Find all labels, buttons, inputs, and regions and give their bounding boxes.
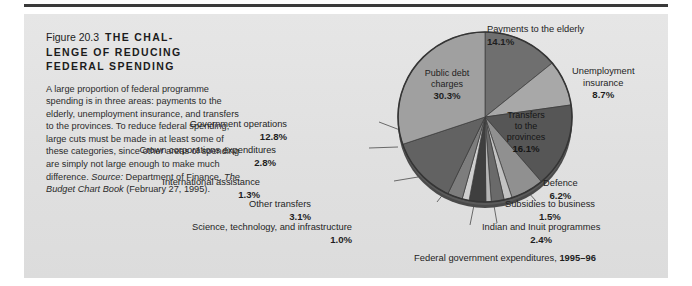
top-rule-divider xyxy=(24,4,668,7)
slice-callout-science-name: Science, technology, and infrastructure xyxy=(192,222,352,232)
slice-callout-indian-value: 2.4% xyxy=(482,234,600,246)
slice-callout-science-value: 1.0% xyxy=(192,234,352,246)
figure-number: Figure 20.3 xyxy=(46,31,99,43)
slice-callout-othertrans-value: 3.1% xyxy=(249,211,311,223)
source-label: Source: xyxy=(91,172,123,182)
chart-footer-year: 1995–96 xyxy=(559,252,596,263)
slice-callout-intassist-value: 1.3% xyxy=(162,189,260,201)
slice-callout-other-transfers: Other transfers 3.1% xyxy=(249,199,311,222)
slice-callout-government-operations: Government operations 12.8% xyxy=(190,119,287,142)
slice-callout-intassist-name: International assistance xyxy=(162,177,260,187)
figure-title-line-3: FEDERAL SPENDING xyxy=(46,60,175,72)
slice-callout-subsidies-name: Subsidies to business xyxy=(505,199,595,209)
slice-callout-othertrans-name: Other transfers xyxy=(249,199,311,209)
slice-callout-science-technology-infrastructure: Science, technology, and infrastructure … xyxy=(192,222,352,245)
slice-callout-elderly-value: 14.1% xyxy=(487,36,584,48)
slice-callout-elderly-name: Payments to the elderly xyxy=(487,24,584,34)
figure-caption-block: Figure 20.3 THE CHAL- LENGE OF REDUCING … xyxy=(46,30,242,196)
slice-callout-ei-line2: insurance xyxy=(583,78,623,88)
figure-page: Figure 20.3 THE CHAL- LENGE OF REDUCING … xyxy=(0,0,692,286)
slice-callout-crown-value: 2.8% xyxy=(140,157,276,169)
slice-callout-indian-name: Indian and Inuit programmes xyxy=(482,222,600,232)
slice-callout-international-assistance: International assistance 1.3% xyxy=(162,177,260,200)
slice-callout-defence: Defence 6.2% xyxy=(543,178,578,201)
figure-title-line-2: LENGE OF REDUCING xyxy=(46,46,182,58)
chart-footer-caption: Federal government expenditures, 1995–96 xyxy=(414,252,596,263)
chart-footer-text: Federal government expenditures, xyxy=(414,252,559,263)
slice-callout-subsidies-to-business: Subsidies to business 1.5% xyxy=(505,199,595,222)
slice-callout-govops-value: 12.8% xyxy=(190,131,287,143)
figure-title: Figure 20.3 THE CHAL- LENGE OF REDUCING … xyxy=(46,30,242,74)
slice-callout-ei-value: 8.7% xyxy=(572,89,635,101)
pie-slices xyxy=(398,32,572,202)
slice-callout-defence-name: Defence xyxy=(543,178,578,188)
slice-callout-unemployment-insurance: Unemployment insurance 8.7% xyxy=(572,66,635,101)
figure-title-line-1: THE CHAL- xyxy=(105,31,174,43)
slice-callout-ei-line1: Unemployment xyxy=(572,66,635,76)
slice-callout-crown-name: Crown corporations expenditures xyxy=(140,145,276,155)
slice-callout-crown-corporations-expenditures: Crown corporations expenditures 2.8% xyxy=(140,145,276,168)
slice-callout-payments-to-the-elderly: Payments to the elderly 14.1% xyxy=(487,24,584,47)
slice-callout-govops-name: Government operations xyxy=(190,119,287,129)
slice-callout-subsidies-value: 1.5% xyxy=(505,211,595,223)
slice-callout-indian-and-inuit-programmes: Indian and Inuit programmes 2.4% xyxy=(482,222,600,245)
